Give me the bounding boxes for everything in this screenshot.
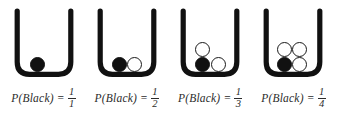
probability-caption-1: P(Black) =11 [11,87,76,110]
fraction: 12 [151,87,159,110]
white-ball [195,42,210,57]
urn-panel-3: P(Black) =13 [169,0,252,113]
ball-group-4 [263,8,323,78]
urn-container-3 [180,8,240,78]
white-ball [127,57,142,72]
caption-label: P(Black) = [178,93,232,105]
probability-caption-4: P(Black) =14 [261,87,326,110]
ball-group-2 [97,8,157,78]
caption-label: P(Black) = [261,93,315,105]
fraction-denominator: 3 [236,99,241,110]
black-ball [195,57,210,72]
probability-caption-3: P(Black) =13 [178,87,243,110]
white-ball [292,42,307,57]
fraction-numerator: 1 [152,87,157,98]
fraction-numerator: 1 [236,87,241,98]
fraction-numerator: 1 [69,87,74,98]
fraction: 11 [68,87,76,110]
ball-group-3 [180,8,240,78]
white-ball [292,57,307,72]
probability-urn-figure: P(Black) =11P(Black) =12P(Black) =13P(Bl… [0,0,337,113]
black-ball [277,57,292,72]
white-ball [211,57,226,72]
black-ball [112,57,127,72]
fraction: 13 [234,87,242,110]
urn-panel-1: P(Black) =11 [2,0,85,113]
urn-container-1 [14,8,74,78]
caption-label: P(Black) = [11,93,65,105]
probability-caption-2: P(Black) =12 [95,87,160,110]
caption-label: P(Black) = [95,93,149,105]
fraction-denominator: 4 [319,99,324,110]
black-ball [30,57,45,72]
urn-panel-2: P(Black) =12 [85,0,168,113]
fraction-numerator: 1 [319,87,324,98]
urn-panel-4: P(Black) =14 [252,0,335,113]
fraction-denominator: 1 [69,99,74,110]
fraction-denominator: 2 [152,99,157,110]
ball-group-1 [14,8,74,78]
fraction: 14 [318,87,326,110]
urn-container-2 [97,8,157,78]
urn-container-4 [263,8,323,78]
white-ball [277,42,292,57]
